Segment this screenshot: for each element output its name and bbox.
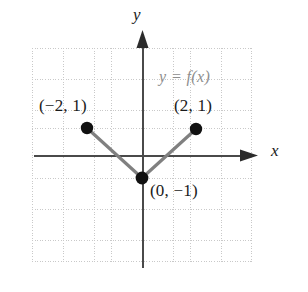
- y-axis-arrowhead: [137, 30, 149, 48]
- data-point-left: [81, 122, 93, 134]
- graph-figure: (−2, 1) (2, 1) (0, −1) y = f(x) y x: [0, 0, 308, 292]
- graph-canvas: [0, 0, 308, 292]
- label-x-axis: x: [271, 142, 279, 159]
- label-left-point: (−2, 1): [39, 97, 87, 114]
- x-axis-arrowhead: [240, 150, 258, 162]
- axis-group: [34, 30, 258, 268]
- label-vertex-point: (0, −1): [150, 182, 198, 199]
- data-point-right: [190, 123, 202, 135]
- label-function-equation: y = f(x): [159, 69, 210, 85]
- data-point-vertex: [136, 172, 149, 185]
- label-right-point: (2, 1): [174, 97, 212, 114]
- label-y-axis: y: [133, 6, 141, 23]
